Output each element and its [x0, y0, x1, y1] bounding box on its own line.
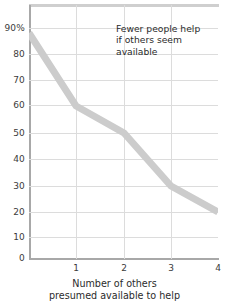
- annotation-line-2: if others seem: [116, 34, 216, 45]
- annotation-line-3: available: [116, 46, 216, 57]
- x-axis-title: Number of others presumed available to h…: [0, 278, 229, 303]
- x-tick-label-4: 4: [208, 263, 228, 273]
- x-tick-label-1: 1: [66, 263, 86, 273]
- annotation-line-1: Fewer people help: [116, 23, 216, 34]
- x-axis-title-line-1: Number of others: [0, 278, 229, 290]
- chart-annotation: Fewer people help if others seem availab…: [116, 23, 216, 57]
- x-tick-label-3: 3: [161, 263, 181, 273]
- chart-figure: 90% 80 70 60 50 40 30 20 10 0 1 2 3 4 Fe…: [0, 0, 229, 308]
- x-axis-title-line-2: presumed available to help: [0, 290, 229, 302]
- x-tick-label-2: 2: [114, 263, 134, 273]
